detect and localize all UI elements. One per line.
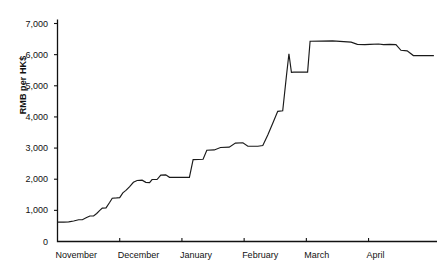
series-line-rmb-per-hk- bbox=[58, 41, 434, 222]
chart-container: RMB per HK$ 01,0002,0003,0004,0005,0006,… bbox=[0, 0, 441, 274]
chart-plot-area bbox=[0, 0, 441, 274]
axis-lines bbox=[58, 20, 438, 242]
